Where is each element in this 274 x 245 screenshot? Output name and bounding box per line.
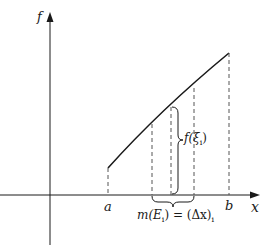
function-curve <box>108 53 229 168</box>
x-axis <box>0 192 260 199</box>
tick-label-a: a <box>104 199 112 214</box>
height-label: f(ξi) <box>184 131 207 147</box>
tick-label-b: b <box>225 198 233 213</box>
dashed-guides <box>108 53 229 195</box>
measure-label: m(Ei) = (Δx)i <box>137 208 214 224</box>
y-axis <box>47 12 54 245</box>
measure-brace <box>152 196 194 207</box>
y-axis-label: f <box>37 9 42 24</box>
height-brace <box>172 107 183 194</box>
y-axis-arrow-icon <box>47 12 54 22</box>
x-axis-label: x <box>251 199 259 215</box>
diagram: f x a b f(ξi) m(Ei) = (Δx)i <box>0 0 274 245</box>
x-axis-arrow-icon <box>250 192 260 199</box>
